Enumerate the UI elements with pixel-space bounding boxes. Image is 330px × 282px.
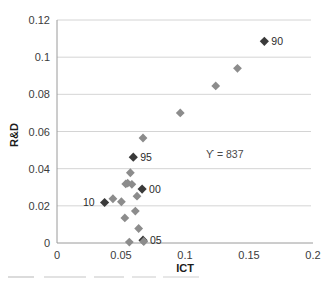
data-point-label: 00 xyxy=(149,183,161,195)
data-point-marker xyxy=(117,197,126,206)
data-point-marker xyxy=(125,238,134,247)
data-point xyxy=(134,224,143,233)
data-point-label: 05 xyxy=(150,234,162,246)
correlation-annotation: ϒ = 837 xyxy=(206,148,244,160)
data-point xyxy=(133,192,142,201)
annotations-layer: ϒ = 837 xyxy=(206,148,244,160)
y-axis-title-group: R&D xyxy=(8,123,20,147)
y-tick-label: 0.08 xyxy=(29,88,50,100)
y-tick-label: 0.02 xyxy=(29,200,50,212)
data-point: 00 xyxy=(138,183,161,195)
x-tick-label: 0.15 xyxy=(238,249,259,261)
data-point-marker xyxy=(131,207,140,216)
data-point xyxy=(109,194,118,203)
scatter-chart-figure: 00.020.040.060.080.10.12 00.050.10.150.2… xyxy=(0,0,330,282)
data-point-marker xyxy=(126,168,135,177)
data-point xyxy=(233,64,242,73)
caption-remnant xyxy=(8,276,199,278)
data-point: 90 xyxy=(260,35,283,47)
x-axis-tick-labels: 00.050.10.150.2 xyxy=(54,249,321,261)
x-tick-label: 0.05 xyxy=(110,249,131,261)
data-point xyxy=(125,238,134,247)
y-tick-label: 0.12 xyxy=(29,14,50,26)
data-point-marker xyxy=(120,214,129,223)
y-axis-title: R&D xyxy=(8,123,20,147)
y-tick-label: 0.06 xyxy=(29,126,50,138)
y-tick-label: 0.1 xyxy=(35,51,50,63)
data-point xyxy=(117,197,126,206)
data-point-marker xyxy=(139,134,148,143)
data-point-marker xyxy=(260,37,269,46)
x-axis-title: ICT xyxy=(176,262,194,274)
data-point xyxy=(139,134,148,143)
data-point xyxy=(131,207,140,216)
x-tick-label: 0.1 xyxy=(177,249,192,261)
data-point-label: 90 xyxy=(271,35,283,47)
data-point-marker xyxy=(176,109,185,118)
x-tick-label: 0 xyxy=(54,249,60,261)
data-point-marker xyxy=(211,82,220,91)
data-point-marker xyxy=(134,224,143,233)
data-point-label: 95 xyxy=(140,151,152,163)
data-point xyxy=(176,109,185,118)
y-tick-label: 0 xyxy=(44,237,50,249)
data-point-marker xyxy=(109,194,118,203)
data-point xyxy=(211,82,220,91)
data-point xyxy=(120,214,129,223)
data-point-marker xyxy=(138,185,147,194)
chart-canvas: 00.020.040.060.080.10.12 00.050.10.150.2… xyxy=(0,0,330,282)
x-tick-label: 0.2 xyxy=(305,249,320,261)
data-points-layer: 9095001005 xyxy=(83,35,283,246)
data-point xyxy=(126,168,135,177)
data-point-marker xyxy=(233,64,242,73)
data-point: 10 xyxy=(83,196,109,208)
y-axis-tick-labels: 00.020.040.060.080.10.12 xyxy=(29,14,50,249)
data-point: 95 xyxy=(129,151,152,163)
data-point-label: 10 xyxy=(83,196,95,208)
y-tick-label: 0.04 xyxy=(29,163,50,175)
data-point-marker xyxy=(133,192,142,201)
data-point-marker xyxy=(129,153,138,162)
